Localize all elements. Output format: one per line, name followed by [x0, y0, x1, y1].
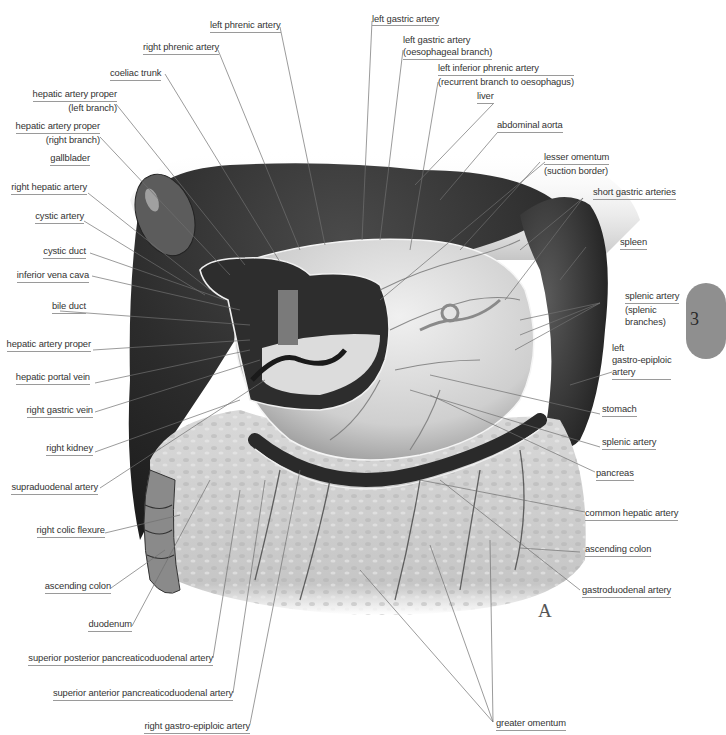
label-ascending-colon-right: ascending colon: [585, 543, 651, 557]
label-gastroduodenal-artery: gastroduodenal artery: [582, 584, 671, 598]
label-gallbladder: gallblader: [50, 152, 90, 166]
label-lesser-omentum: lesser omentum(suction border): [544, 151, 609, 177]
label-spleen: spleen: [620, 236, 647, 250]
label-hepatic-artery-proper-left: hepatic artery proper(left branch): [33, 88, 117, 114]
label-right-hepatic-artery: right hepatic artery: [11, 181, 87, 195]
label-pancreas: pancreas: [596, 467, 634, 481]
label-stomach: stomach: [602, 403, 637, 417]
page-number-tab: 3: [686, 283, 726, 359]
page-number: 3: [690, 309, 699, 330]
label-supraduodenal-artery: supraduodenal artery: [11, 481, 98, 495]
label-common-hepatic-artery: common hepatic artery: [585, 507, 678, 521]
label-cystic-artery: cystic artery: [35, 210, 84, 224]
label-right-colic-flexure: right colic flexure: [37, 524, 105, 538]
label-left-gastric-artery: left gastric artery: [372, 13, 439, 25]
label-cystic-duct: cystic duct: [43, 245, 86, 259]
label-liver: liver: [477, 90, 494, 104]
label-left-phrenic-artery: left phrenic artery: [210, 19, 281, 33]
label-duodenum: duodenum: [88, 618, 132, 632]
label-right-kidney: right kidney: [46, 442, 93, 456]
label-right-gastro-epiploic-artery: right gastro-epiploic artery: [144, 720, 250, 734]
label-inferior-vena-cava: inferior vena cava: [17, 269, 89, 283]
label-short-gastric-arteries: short gastric arteries: [593, 186, 676, 200]
label-splenic-artery-branches: splenic artery(splenicbranches): [625, 290, 679, 328]
panel-letter: A: [538, 600, 552, 622]
label-superior-anterior-pancreaticoduodenal-artery: superior anterior pancreaticoduodenal ar…: [53, 687, 233, 701]
label-left-inferior-phrenic-artery: left inferior phrenic artery(recurrent b…: [438, 62, 574, 88]
label-hepatic-artery-proper: hepatic artery proper: [7, 338, 91, 352]
label-superior-posterior-pancreaticoduodenal-artery: superior posterior pancreaticoduodenal a…: [28, 652, 213, 666]
label-abdominal-aorta: abdominal aorta: [497, 119, 563, 133]
label-right-phrenic-artery: right phrenic artery: [143, 41, 219, 55]
label-hepatic-artery-proper-right: hepatic artery proper(right branch): [16, 120, 100, 146]
label-splenic-artery: splenic artery: [602, 436, 656, 450]
label-bile-duct: bile duct: [52, 300, 86, 314]
label-ascending-colon-left: ascending colon: [45, 580, 111, 594]
label-greater-omentum: greater omentum: [496, 717, 566, 731]
label-left-gastric-artery-oesophageal: left gastric artery(oesophageal branch): [403, 34, 492, 60]
label-coeliac-trunk: coeliac trunk: [110, 67, 161, 81]
label-left-gastro-epiploic-artery: leftgastro-epiploicartery: [612, 342, 671, 380]
label-right-gastric-vein: right gastric vein: [27, 404, 93, 418]
label-hepatic-portal-vein: hepatic portal vein: [16, 371, 90, 385]
